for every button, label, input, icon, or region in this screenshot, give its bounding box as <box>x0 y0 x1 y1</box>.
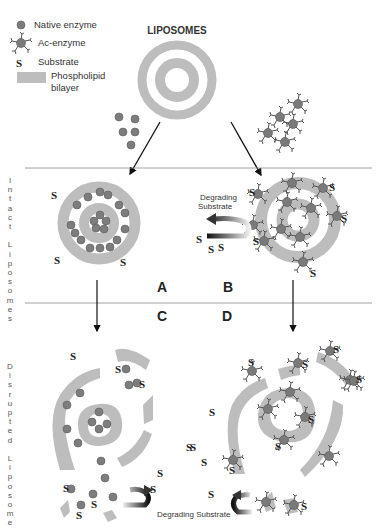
degrading-arrow-bottom-right <box>232 490 252 512</box>
row-label-intact: I n t a c t L i p o s o m e s <box>4 176 16 323</box>
panel-D-fragments <box>228 352 355 514</box>
legend: Native enzyme Ac-enzyme S Substrate Phos… <box>10 19 105 93</box>
svg-text:S: S <box>249 186 255 198</box>
svg-text:S: S <box>51 189 57 201</box>
panel-label-A: A <box>157 279 167 295</box>
panel-label-C: C <box>157 308 167 324</box>
svg-text:S: S <box>115 363 121 375</box>
bilayer-icon <box>17 72 46 83</box>
degrading-bottom: Degrading Substrate <box>157 510 231 519</box>
svg-text:S: S <box>208 243 214 255</box>
svg-text:S: S <box>139 378 145 390</box>
svg-text:S: S <box>209 406 215 418</box>
svg-text:S: S <box>196 233 202 245</box>
svg-text:S: S <box>333 343 339 355</box>
degrading-arrow-bottom <box>123 485 153 505</box>
svg-text:S: S <box>190 441 196 453</box>
svg-text:S: S <box>63 482 69 494</box>
svg-text:S: S <box>76 509 82 521</box>
svg-text:S: S <box>308 413 314 425</box>
title: LIPOSOMES <box>147 25 207 36</box>
svg-text:S: S <box>301 500 307 512</box>
svg-text:S: S <box>329 181 335 193</box>
svg-text:S: S <box>54 254 60 266</box>
svg-text:S: S <box>341 212 347 224</box>
arrow-to-B <box>231 122 261 175</box>
svg-text:S: S <box>70 350 76 362</box>
panel-label-D: D <box>222 308 232 324</box>
top-liposome <box>142 45 212 115</box>
ac-enzyme-icon <box>10 32 32 54</box>
panel-C-fragments <box>53 349 154 522</box>
native-enzyme-icon <box>17 21 25 29</box>
svg-text:S: S <box>201 456 207 468</box>
panel-label-B: B <box>223 279 233 295</box>
row-label-disrupted: D i s r u p t e d L i p o s o m e <box>4 362 16 528</box>
free-native-enzymes <box>115 113 139 149</box>
svg-text:S: S <box>91 498 97 510</box>
legend-bilayer-2: bilayer <box>51 82 79 93</box>
liposome-diagram: Native enzyme Ac-enzyme S Substrate Phos… <box>0 0 389 532</box>
svg-text:S: S <box>120 256 126 268</box>
legend-substrate: Substrate <box>38 56 79 67</box>
legend-native-enzyme: Native enzyme <box>34 19 97 30</box>
panel-A-liposome <box>63 187 135 259</box>
degrading-top-2: Substrate <box>198 202 233 211</box>
svg-text:S: S <box>248 356 254 368</box>
svg-text:S: S <box>253 235 259 247</box>
legend-bilayer-1: Phospholipid <box>51 70 105 81</box>
svg-text:S: S <box>229 464 235 476</box>
svg-text:S: S <box>310 267 316 279</box>
svg-text:S: S <box>356 373 362 385</box>
legend-ac-enzyme: Ac-enzyme <box>38 37 86 48</box>
svg-text:S: S <box>302 358 308 370</box>
svg-text:S: S <box>157 467 163 479</box>
svg-text:S: S <box>208 488 214 500</box>
svg-text:S: S <box>218 241 224 253</box>
degrading-top-1: Degrading <box>200 193 237 202</box>
free-ac-enzymes <box>257 93 309 153</box>
svg-text:S: S <box>275 440 281 452</box>
substrate-icon: S <box>16 57 22 69</box>
